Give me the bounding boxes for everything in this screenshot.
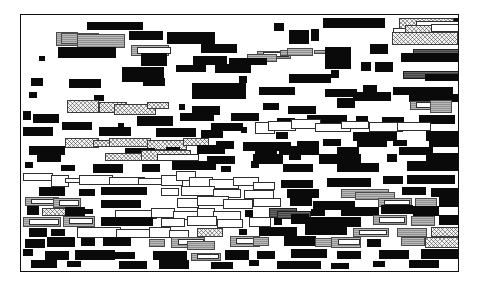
composition-rect <box>245 210 253 217</box>
composition-rect <box>327 178 371 187</box>
composition-rect <box>274 23 284 31</box>
composition-rect <box>201 130 223 138</box>
composition-rect <box>383 176 403 184</box>
composition-rect <box>337 163 379 172</box>
composition-rect <box>381 205 413 214</box>
composition-rect <box>156 128 196 137</box>
composition-rect <box>263 103 279 110</box>
composition-rect <box>29 219 59 225</box>
composition-rect <box>39 187 65 196</box>
composition-rect <box>402 187 426 195</box>
composition-rect <box>101 217 153 226</box>
composition-rect <box>431 188 459 197</box>
composition-rect <box>23 127 53 136</box>
composition-rect <box>305 225 347 235</box>
composition-rect <box>239 229 247 235</box>
composition-rect <box>37 154 61 162</box>
composition-rect <box>393 140 407 146</box>
composition-rect <box>239 76 247 83</box>
composition-rect <box>379 250 409 259</box>
composition-rect <box>257 251 275 259</box>
composition-rect <box>129 31 163 40</box>
composition-rect <box>231 113 259 121</box>
composition-rect <box>325 47 351 69</box>
composition-rect <box>409 260 439 268</box>
composition-rect <box>142 164 160 172</box>
composition-rect <box>23 173 53 181</box>
composition-rect <box>411 216 435 226</box>
composition-rect <box>143 78 165 86</box>
composition-rect <box>25 162 33 168</box>
composition-rect <box>159 260 189 269</box>
composition-rect <box>67 261 81 267</box>
composition-rect <box>253 198 281 207</box>
composition-rect <box>51 229 65 236</box>
composition-rect <box>87 22 143 30</box>
composition-rect <box>31 260 57 268</box>
composition-rect <box>75 250 115 260</box>
composition-rect <box>23 111 31 120</box>
composition-rect <box>161 218 185 227</box>
composition-rect <box>29 92 37 98</box>
composition-rect <box>161 188 179 196</box>
composition-rect <box>439 215 459 225</box>
composition-rect <box>331 263 349 269</box>
composition-rect <box>439 197 459 207</box>
composition-rect <box>311 209 325 216</box>
composition-rect <box>192 83 246 99</box>
composition-rect <box>401 237 425 246</box>
composition-rect <box>47 237 75 247</box>
composition-rect <box>201 44 237 53</box>
composition-rect <box>179 104 185 110</box>
composition-rect <box>338 239 360 245</box>
composition-rect <box>79 189 95 196</box>
composition-rect <box>407 161 459 171</box>
composition-rect <box>153 251 187 260</box>
composition-rect <box>288 106 316 114</box>
composition-rect <box>357 139 387 147</box>
composition-rect <box>187 241 215 250</box>
composition-rect <box>253 237 269 246</box>
composition-rect <box>77 34 125 48</box>
composition-rect <box>221 166 231 172</box>
composition-rect <box>277 261 321 269</box>
composition-rect <box>181 186 215 196</box>
composition-rect <box>23 249 33 256</box>
figure-canvas <box>0 0 478 290</box>
composition-rect <box>353 92 391 101</box>
composition-rect <box>67 100 99 113</box>
composition-rect <box>359 230 387 235</box>
composition-rect <box>211 262 233 269</box>
composition-rect <box>99 127 131 136</box>
composition-rect <box>425 237 459 248</box>
composition-rect <box>373 261 385 267</box>
composition-rect <box>392 32 458 45</box>
composition-rect <box>197 145 225 154</box>
figure-frame <box>20 14 459 272</box>
composition-rect <box>101 200 141 208</box>
composition-rect <box>33 114 59 123</box>
composition-rect <box>61 165 75 171</box>
composition-rect <box>290 197 312 206</box>
composition-rect <box>197 228 223 237</box>
composition-rect <box>430 100 452 113</box>
composition-rect <box>259 87 295 95</box>
composition-rect <box>431 24 459 32</box>
composition-rect <box>289 153 301 160</box>
composition-rect <box>370 44 388 54</box>
composition-rect <box>149 239 165 247</box>
composition-rect <box>289 30 309 44</box>
composition-rect <box>113 252 135 259</box>
composition-rect <box>387 154 397 162</box>
composition-rect <box>361 62 371 71</box>
composition-rect <box>276 132 288 139</box>
composition-rect <box>425 74 459 81</box>
composition-rect <box>149 227 171 238</box>
composition-rect <box>197 254 219 259</box>
composition-rect <box>59 200 79 206</box>
composition-rect <box>31 78 43 86</box>
composition-rect <box>323 139 341 146</box>
composition-rect <box>287 48 313 56</box>
composition-rect <box>172 161 216 170</box>
composition-rect <box>429 137 459 147</box>
